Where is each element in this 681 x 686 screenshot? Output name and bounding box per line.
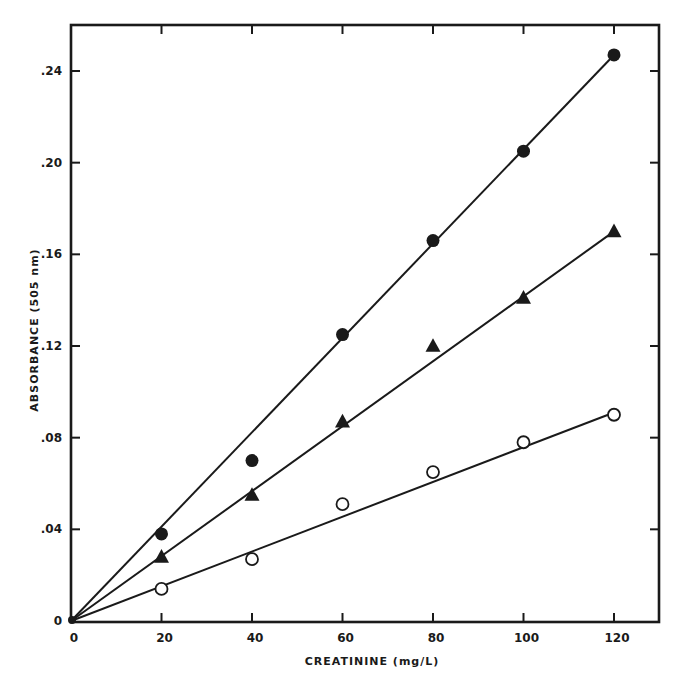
x-tick-label: 120 bbox=[604, 631, 629, 645]
open-circle-marker bbox=[427, 466, 439, 478]
origin-point bbox=[68, 616, 76, 624]
x-tick-label: 100 bbox=[514, 631, 539, 645]
x-tick-label: 20 bbox=[156, 631, 173, 645]
open-circles-fit-line bbox=[71, 412, 614, 621]
y-tick-label: .16 bbox=[41, 247, 62, 261]
y-tick-label: .12 bbox=[41, 339, 62, 353]
filled-circle-marker bbox=[336, 328, 349, 341]
y-tick-label: .04 bbox=[41, 522, 62, 536]
filled-triangle-marker bbox=[607, 224, 622, 238]
absorbance-vs-creatinine-chart: 0204060801001200.04.08.12.16.20.24 CREAT… bbox=[0, 0, 681, 686]
open-circle-marker bbox=[156, 583, 168, 595]
plot-canvas: 0204060801001200.04.08.12.16.20.24 CREAT… bbox=[0, 0, 681, 686]
x-tick-label: 40 bbox=[247, 631, 264, 645]
y-tick-label: 0 bbox=[54, 614, 62, 628]
y-axis-title: ABSORBANCE (505 nm) bbox=[28, 248, 41, 411]
x-axis-title: CREATININE (mg/L) bbox=[305, 655, 440, 668]
open-circle-marker bbox=[608, 409, 620, 421]
y-tick-label: .24 bbox=[41, 64, 62, 78]
filled-triangle-marker bbox=[335, 414, 350, 428]
x-tick-label: 60 bbox=[337, 631, 354, 645]
x-tick-label: 80 bbox=[428, 631, 445, 645]
y-tick-label: .20 bbox=[41, 156, 62, 170]
open-circle-marker bbox=[246, 553, 258, 565]
axis-tick-labels: 0204060801001200.04.08.12.16.20.24 bbox=[41, 64, 630, 645]
filled-circle-marker bbox=[246, 454, 259, 467]
y-tick-label: .08 bbox=[41, 431, 62, 445]
filled-circle-marker bbox=[155, 527, 168, 540]
open-circle-marker bbox=[337, 498, 349, 510]
filled-circle-marker bbox=[427, 234, 440, 247]
filled-circle-marker bbox=[517, 145, 530, 158]
filled-triangle-marker bbox=[426, 338, 441, 352]
open-circle-marker bbox=[518, 436, 530, 448]
x-tick-label: 0 bbox=[70, 631, 78, 645]
filled-circle-marker bbox=[608, 48, 621, 61]
